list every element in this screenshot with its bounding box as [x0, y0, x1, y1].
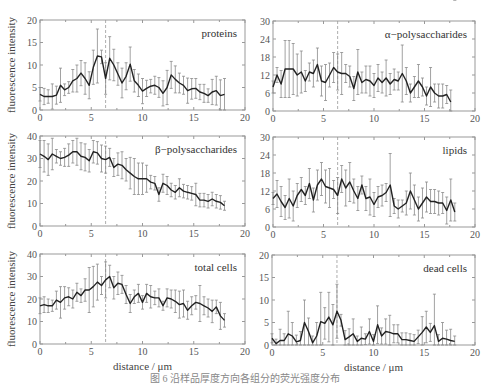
- x-tick-label: 5: [321, 229, 326, 240]
- x-tick-label: 15: [419, 347, 429, 358]
- y-tick-label: 10: [259, 295, 269, 306]
- y-axis-title: fluorescence intensity: [5, 132, 17, 229]
- y-tick-label: 30: [27, 271, 37, 282]
- panel--polysaccharides: 05101520010203040β−polysaccharidesfluore…: [5, 131, 250, 240]
- x-tick-label: 5: [321, 113, 326, 124]
- figure-caption: 图 6 沿样品厚度方向各组分的荧光强度分布: [150, 372, 340, 384]
- x-tick-label: 0: [38, 346, 43, 357]
- y-tick-label: 10: [27, 198, 37, 209]
- x-tick-label: 20: [470, 347, 480, 358]
- panel-lipids: 051015200612182430lipids: [260, 132, 480, 241]
- y-tick-label: 24: [260, 34, 270, 45]
- x-tick-label: 0: [271, 113, 276, 124]
- y-tick-label: 18: [260, 168, 270, 179]
- x-tick-label: 15: [420, 113, 430, 124]
- y-tick-label: 0: [265, 222, 270, 233]
- data-series-line: [273, 179, 455, 212]
- data-series-line: [40, 277, 225, 321]
- y-tick-label: 0: [32, 105, 37, 116]
- x-tick-label: 20: [470, 229, 480, 240]
- panel-title: proteins: [202, 27, 237, 39]
- x-axis-title: distance / μm: [113, 360, 172, 372]
- x-tick-label: 15: [189, 346, 199, 357]
- x-tick-label: 5: [320, 347, 325, 358]
- x-tick-label: 10: [138, 346, 148, 357]
- y-tick-label: 10: [27, 316, 37, 327]
- y-tick-label: 20: [27, 294, 37, 305]
- y-axis-title: fluorescence intensity: [5, 250, 17, 347]
- x-tick-label: 20: [240, 112, 250, 123]
- y-tick-label: 15: [27, 37, 37, 48]
- x-tick-label: 15: [189, 228, 199, 239]
- x-tick-label: 20: [470, 113, 480, 124]
- y-tick-label: 12: [260, 70, 270, 81]
- x-tick-label: 5: [89, 228, 94, 239]
- y-tick-label: 30: [260, 132, 270, 143]
- y-tick-label: 20: [27, 176, 37, 187]
- y-tick-label: 0: [264, 340, 269, 351]
- panel-dead-cells: 0510152005101520dead cellsdistance / μm: [259, 250, 480, 374]
- y-tick-label: 6: [265, 88, 270, 99]
- x-tick-label: 10: [369, 347, 379, 358]
- x-tick-label: 0: [270, 347, 275, 358]
- data-series-line: [40, 56, 225, 97]
- y-tick-label: 0: [32, 221, 37, 232]
- y-tick-label: 5: [264, 317, 269, 328]
- panel--polysaccharides: 051015200612182430α−polysaccharides: [260, 0, 480, 124]
- panel-title: lipids: [443, 144, 467, 156]
- data-series-line: [40, 152, 225, 206]
- y-tick-label: 10: [27, 60, 37, 71]
- panel-proteins: 0510152005101520proteinsfluorescence int…: [5, 15, 250, 124]
- panel-total-cells: 05101520010203040total cellsfluorescence…: [5, 249, 250, 373]
- y-tick-label: 24: [260, 150, 270, 161]
- panel-title: β−polysaccharides: [155, 143, 237, 155]
- data-series-line: [272, 311, 455, 343]
- x-tick-label: 15: [189, 112, 199, 123]
- x-tick-label: 0: [38, 228, 43, 239]
- y-tick-label: 18: [260, 52, 270, 63]
- y-tick-label: 0: [32, 339, 37, 350]
- x-axis-title: distance / μm: [344, 361, 403, 373]
- x-tick-label: 20: [240, 346, 250, 357]
- x-tick-label: 10: [369, 229, 379, 240]
- y-tick-label: 12: [260, 186, 270, 197]
- x-tick-label: 20: [240, 228, 250, 239]
- y-tick-label: 5: [32, 82, 37, 93]
- panel-title: α−polysaccharides: [385, 28, 467, 40]
- x-tick-label: 10: [138, 112, 148, 123]
- y-tick-label: 40: [27, 249, 37, 260]
- x-tick-label: 10: [369, 113, 379, 124]
- y-tick-label: 40: [27, 131, 37, 142]
- y-axis-title: fluorescence intensity: [5, 16, 17, 113]
- y-tick-label: 0: [265, 106, 270, 117]
- x-tick-label: 5: [89, 346, 94, 357]
- x-tick-label: 5: [89, 112, 94, 123]
- y-tick-label: 6: [265, 204, 270, 215]
- y-tick-label: 30: [27, 153, 37, 164]
- x-tick-label: 0: [271, 229, 276, 240]
- y-tick-label: 15: [259, 272, 269, 283]
- figure-canvas: 0510152005101520proteinsfluorescence int…: [0, 0, 491, 386]
- y-tick-label: 20: [259, 250, 269, 261]
- panel-title: total cells: [195, 261, 237, 273]
- x-tick-label: 15: [420, 229, 430, 240]
- x-tick-label: 0: [38, 112, 43, 123]
- y-tick-label: 30: [260, 16, 270, 27]
- x-tick-label: 10: [138, 228, 148, 239]
- panel-title: dead cells: [423, 262, 467, 274]
- y-tick-label: 20: [27, 15, 37, 26]
